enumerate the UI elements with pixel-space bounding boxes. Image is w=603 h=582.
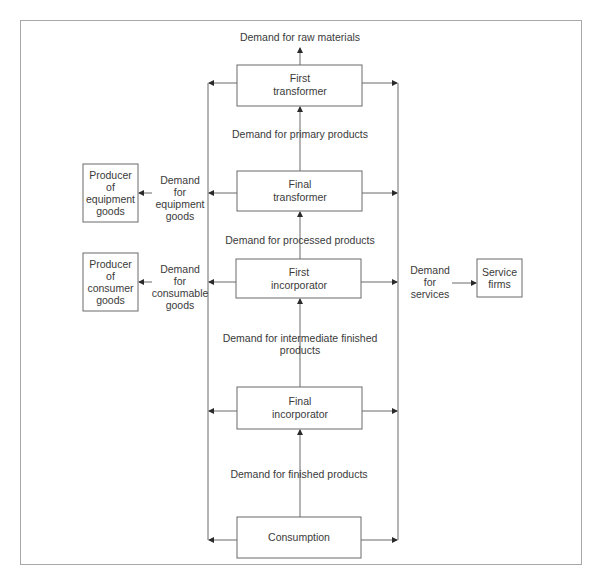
svg-text:goods: goods (166, 210, 195, 222)
edge-label-finished-products: Demand for finished products (230, 468, 367, 480)
node-label: Final (289, 395, 312, 407)
node-label: goods (96, 205, 125, 217)
flow-diagram: First transformer Final transformer Firs… (0, 0, 603, 582)
node-first-incorporator: First incorporator (236, 259, 361, 298)
node-final-incorporator: Final incorporator (237, 387, 362, 429)
node-label: Service (482, 266, 517, 278)
node-service-firms: Service firms (477, 259, 522, 297)
node-label: Producer (89, 169, 132, 181)
edge-label-primary-products: Demand for primary products (232, 128, 368, 140)
edge-label-consumable-goods: Demand for consumable goods (152, 263, 209, 311)
svg-text:for: for (174, 275, 187, 287)
edge-label-intermediate-finished: products (280, 344, 320, 356)
node-consumption: Consumption (237, 517, 361, 558)
edge-label-intermediate-finished: Demand for intermediate finished (223, 332, 378, 344)
node-label: goods (96, 294, 125, 306)
svg-text:services: services (411, 288, 450, 300)
edge-label-services: Demand for services (410, 264, 450, 300)
node-label: Producer (89, 258, 132, 270)
node-producer-equipment-goods: Producer of equipment goods (83, 164, 138, 222)
svg-text:goods: goods (166, 299, 195, 311)
svg-text:Demand: Demand (160, 174, 200, 186)
node-label: First (290, 72, 310, 84)
node-label: Consumption (268, 531, 330, 543)
node-label: consumer (87, 282, 134, 294)
edge-label-equipment-goods: Demand for equipment goods (155, 174, 204, 222)
edge-label-processed-products: Demand for processed products (225, 234, 374, 246)
svg-text:Demand: Demand (160, 263, 200, 275)
node-producer-consumer-goods: Producer of consumer goods (83, 253, 138, 311)
svg-text:Demand: Demand (410, 264, 450, 276)
node-label: of (106, 270, 115, 282)
node-label: equipment (86, 193, 135, 205)
svg-text:for: for (424, 276, 437, 288)
svg-text:consumable: consumable (152, 287, 209, 299)
node-final-transformer: Final transformer (237, 171, 362, 211)
node-label: Final (289, 178, 312, 190)
node-label: of (106, 181, 115, 193)
node-label: transformer (273, 191, 327, 203)
edge-label-raw-materials: Demand for raw materials (240, 31, 360, 43)
node-label: firms (488, 278, 511, 290)
node-label: incorporator (272, 408, 329, 420)
svg-text:for: for (174, 186, 187, 198)
node-label: incorporator (271, 279, 328, 291)
node-label: transformer (273, 85, 327, 97)
node-first-transformer: First transformer (237, 65, 362, 106)
svg-text:equipment: equipment (155, 198, 204, 210)
node-label: First (289, 266, 309, 278)
